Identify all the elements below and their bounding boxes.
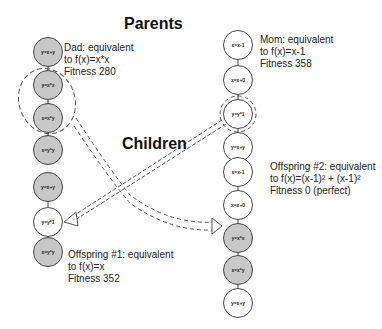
caption-line: Dad: equivalent bbox=[64, 42, 134, 54]
caption-line: Fitness 280 bbox=[64, 66, 134, 78]
caption-line: to f(x)=(x-1)² + (x-1)² bbox=[270, 173, 375, 185]
offspring2-node-1: x=x-1 bbox=[223, 157, 253, 187]
offspring2-node-2: x=x+0 bbox=[223, 190, 253, 220]
offspring2-node-3: y=x*x bbox=[223, 223, 253, 253]
dad-node-3: x=x*y bbox=[33, 103, 63, 133]
caption-line: to f(x)=x*x bbox=[64, 54, 134, 66]
children-title: Children bbox=[122, 135, 187, 153]
mom-node-1: x=x-1 bbox=[223, 30, 253, 60]
parents-title: Parents bbox=[124, 15, 183, 33]
dad-node-2: y=x*x bbox=[33, 70, 63, 100]
offspring2-node-4: x=x*y bbox=[223, 255, 253, 285]
caption-line: Fitness 352 bbox=[68, 273, 173, 285]
mom-node-2: x=x+0 bbox=[223, 65, 253, 95]
mom-node-3: y=y*1 bbox=[223, 99, 253, 129]
caption-line: Offspring #2: equivalent bbox=[270, 161, 375, 173]
caption-line: Offspring #1: equivalent bbox=[68, 249, 173, 261]
offspring1-node-3: x=y*y bbox=[33, 237, 63, 267]
offspring2-node-5: y=x+y bbox=[223, 288, 253, 318]
offspring1-caption: Offspring #1: equivalent to f(x)=x Fitne… bbox=[68, 249, 173, 285]
offspring1-node-2: y=y*1 bbox=[33, 207, 63, 237]
offspring2-caption: Offspring #2: equivalent to f(x)=(x-1)² … bbox=[270, 161, 375, 197]
mom-caption: Mom: equivalent to f(x)=x-1 Fitness 358 bbox=[260, 34, 333, 70]
offspring1-node-1: y=x+y bbox=[33, 172, 63, 202]
dad-node-4: x=y*y bbox=[33, 135, 63, 165]
caption-line: to f(x)=x-1 bbox=[260, 46, 333, 58]
caption-line: Fitness 358 bbox=[260, 58, 333, 70]
caption-line: to f(x)=x bbox=[68, 261, 173, 273]
dad-node-1: y=x+y bbox=[33, 37, 63, 67]
caption-line: Mom: equivalent bbox=[260, 34, 333, 46]
dad-caption: Dad: equivalent to f(x)=x*x Fitness 280 bbox=[64, 42, 134, 78]
caption-line: Fitness 0 (perfect) bbox=[270, 185, 375, 197]
